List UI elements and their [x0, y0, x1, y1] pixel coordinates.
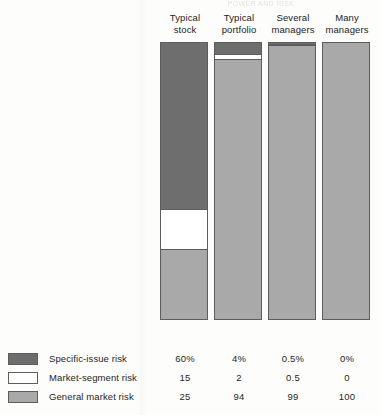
value-cell: 25 — [158, 391, 212, 402]
bar-several-managers — [268, 42, 316, 320]
column-header-line1: Several — [266, 12, 320, 24]
legend: Specific-issue risk Market-segment risk … — [8, 349, 136, 406]
column-header-line2: portfolio — [212, 24, 266, 36]
column-headers: Typical stock Typical portfolio Several … — [158, 12, 374, 40]
column-header-line1: Many — [320, 12, 374, 24]
value-row-general-market-risk: 25 94 99 100 — [158, 387, 374, 406]
value-cell: 94 — [212, 391, 266, 402]
column-header-several-managers: Several managers — [266, 12, 320, 35]
value-table: 60% 4% 0.5% 0% 15 2 0.5 0 25 94 99 100 — [158, 349, 374, 406]
legend-item-specific-issue-risk: Specific-issue risk — [8, 349, 136, 368]
legend-item-label: Market-segment risk — [49, 372, 137, 383]
column-header-line2: stock — [158, 24, 212, 36]
value-cell: 0 — [320, 372, 374, 383]
value-cell: 99 — [266, 391, 320, 402]
legend-item-market-segment-risk: Market-segment risk — [8, 368, 136, 387]
value-cell: 0.5 — [266, 372, 320, 383]
bar-segment — [323, 43, 369, 319]
legend-swatch-icon — [8, 372, 38, 384]
column-header-line1: Typical — [158, 12, 212, 24]
value-cell: 15 — [158, 372, 212, 383]
page-seam-artifact — [139, 0, 146, 415]
column-header-typical-stock: Typical stock — [158, 12, 212, 35]
stacked-bar-chart-figure: POWER AND RISK Typical stock Typical por… — [0, 0, 380, 415]
column-header-line1: Typical — [212, 12, 266, 24]
bar-segment — [215, 60, 261, 319]
column-header-many-managers: Many managers — [320, 12, 374, 35]
legend-item-label: General market risk — [49, 391, 134, 402]
plot-area — [158, 42, 374, 320]
column-header-typical-portfolio: Typical portfolio — [212, 12, 266, 35]
legend-swatch-icon — [8, 353, 38, 365]
legend-swatch-icon — [8, 391, 38, 403]
bar-segment — [161, 250, 207, 319]
bar-segment — [161, 43, 207, 209]
bar-many-managers — [322, 42, 370, 320]
value-cell: 2 — [212, 372, 266, 383]
bar-segment — [161, 209, 207, 250]
bar-segment — [215, 43, 261, 54]
column-header-line2: managers — [266, 24, 320, 36]
value-cell: 100 — [320, 391, 374, 402]
column-header-line2: managers — [320, 24, 374, 36]
bar-typical-stock — [160, 42, 208, 320]
bar-typical-portfolio — [214, 42, 262, 320]
legend-item-label: Specific-issue risk — [49, 353, 127, 364]
value-cell: 4% — [212, 353, 266, 364]
value-cell: 0.5% — [266, 353, 320, 364]
legend-item-general-market-risk: General market risk — [8, 387, 136, 406]
value-row-market-segment-risk: 15 2 0.5 0 — [158, 368, 374, 387]
cropped-page-header-text: POWER AND RISK — [181, 0, 341, 7]
value-cell: 60% — [158, 353, 212, 364]
value-row-specific-issue-risk: 60% 4% 0.5% 0% — [158, 349, 374, 368]
bar-segment — [269, 46, 315, 319]
value-cell: 0% — [320, 353, 374, 364]
